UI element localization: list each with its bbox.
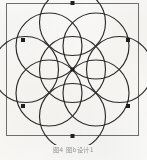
marker-left-lower (21, 104, 25, 108)
node-marker-group (21, 1, 130, 138)
marker-left-upper (21, 38, 25, 42)
marker-center (71, 68, 75, 72)
marker-right-upper (126, 38, 130, 42)
figure-caption: 图4 图b设计1 (53, 146, 94, 154)
marker-bottom-center (71, 134, 75, 138)
figure-container: 图4 图b设计1 (0, 0, 147, 160)
marker-top-center (71, 1, 75, 5)
circle-lattice (0, 0, 147, 145)
geometric-pattern-figure (0, 0, 147, 145)
marker-right-lower (126, 104, 130, 108)
caption-row: 图4 图b设计1 (0, 145, 147, 160)
